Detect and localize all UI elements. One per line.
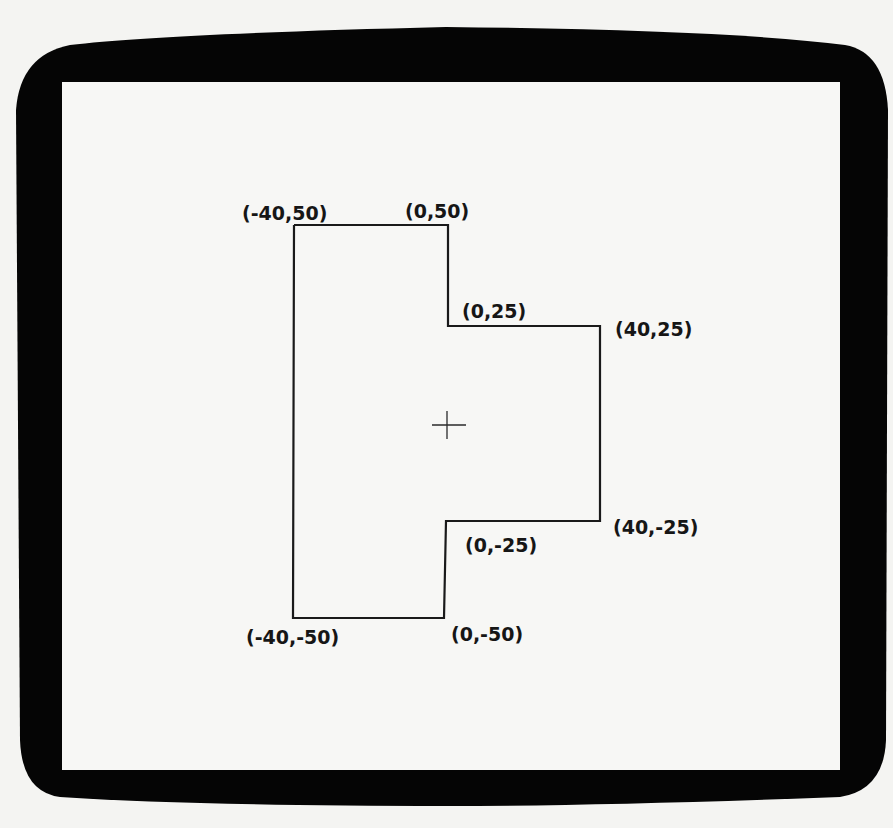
vertex-label-0-neg50: (0,-50) [451, 623, 523, 645]
vertex-label-40-neg25: (40,-25) [613, 516, 698, 538]
crt-display: (-40,50) (0,50) (0,25) (40,25) (40,-25) … [0, 0, 893, 828]
screen-area [62, 82, 840, 770]
vertex-label-0-25: (0,25) [462, 300, 526, 322]
vertex-label-0-neg25: (0,-25) [465, 534, 537, 556]
vertex-label-40-25: (40,25) [615, 318, 692, 340]
vertex-label-neg40-50: (-40,50) [242, 202, 327, 224]
vertex-label-neg40-neg50: (-40,-50) [246, 626, 339, 648]
vertex-label-0-50: (0,50) [405, 200, 469, 222]
